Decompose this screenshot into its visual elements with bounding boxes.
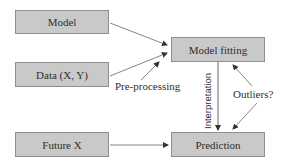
node-model: Model [15,10,109,34]
label-preprocessing: Pre-processing [115,81,180,92]
arrow-preprocessing-to-fitting [141,62,159,80]
node-data: Data (X, Y) [15,62,109,87]
node-label: Model fitting [189,44,247,56]
label-interpretation: Interpretation [203,73,213,129]
node-label: Prediction [195,139,240,151]
arrow-data-to-fitting [110,53,167,76]
node-label: Data (X, Y) [36,69,88,81]
node-future-x: Future X [15,132,109,157]
node-prediction: Prediction [171,132,265,157]
node-label: Model [48,16,77,28]
arrow-outliers-to-fitting [233,65,252,86]
arrow-outliers-to-prediction [233,103,257,129]
diagram-canvas: Model Data (X, Y) Future X Model fitting… [0,0,291,162]
label-outliers: Outliers? [233,89,273,100]
arrow-model-to-fitting [110,23,167,45]
node-label: Future X [42,139,81,151]
node-model-fitting: Model fitting [171,37,265,62]
